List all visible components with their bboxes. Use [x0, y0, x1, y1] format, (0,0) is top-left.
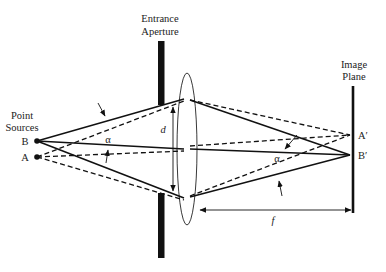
leader-arrow-bottom-right [279, 181, 282, 196]
leader-arrow-angle-left [106, 150, 108, 163]
aperture-diameter-label: d [160, 124, 166, 135]
entrance-aperture [158, 41, 165, 258]
optics-diagram: Entrance Aperture Image Plane Point Sour… [0, 0, 386, 272]
entrance-aperture-label-2: Aperture [141, 26, 179, 37]
entrance-aperture-label: Entrance [141, 13, 179, 24]
rays-from-b [37, 99, 350, 198]
angle-alpha-left: α [105, 134, 111, 145]
point-b-label: B [21, 136, 28, 147]
angle-alpha-right: α [274, 153, 280, 164]
point-a-label: A [21, 152, 29, 163]
leader-arrow-angle-right [285, 135, 297, 149]
aperture-bottom-stop [158, 193, 165, 258]
point-a [34, 154, 40, 160]
point-sources-label: Point [11, 110, 33, 121]
rays-from-a [37, 100, 350, 200]
leader-arrow-top-left [98, 103, 105, 116]
focal-length-label: f [272, 215, 277, 226]
image-plane-label-2: Plane [342, 71, 366, 82]
point-sources-label-2: Sources [5, 122, 38, 133]
image-a-label: A′ [358, 130, 368, 141]
aperture-top-stop [158, 41, 165, 105]
image-b-label: B′ [358, 150, 367, 161]
image-plane-label: Image [341, 59, 368, 70]
point-b [34, 138, 40, 144]
